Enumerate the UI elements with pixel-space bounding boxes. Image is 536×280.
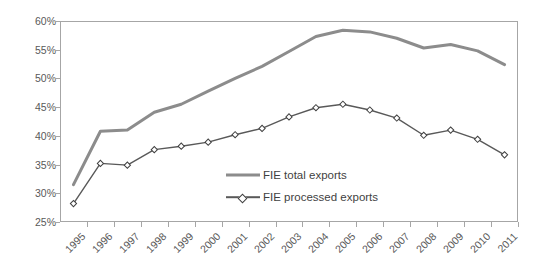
y-axis-tick-label: 60% <box>22 15 56 27</box>
chart-legend: FIE total exports FIE processed exports <box>226 164 378 208</box>
x-axis-tick-mark <box>141 222 142 227</box>
x-axis-tick-label: 2006 <box>355 230 385 260</box>
y-axis-tick-label: 30% <box>22 187 56 199</box>
legend-label-total: FIE total exports <box>263 169 347 181</box>
x-axis-tick-label: 1995 <box>58 230 88 260</box>
x-axis-tick-mark <box>222 222 223 227</box>
x-axis-tick-label: 2007 <box>382 230 412 260</box>
x-axis-tick-mark <box>168 222 169 227</box>
x-axis-tick-label: 2010 <box>462 230 492 260</box>
y-axis-tick-mark <box>55 50 60 51</box>
legend-line-processed-icon <box>226 190 260 204</box>
x-axis-tick-mark <box>464 222 465 227</box>
x-axis-tick-mark <box>491 222 492 227</box>
legend-line-total-icon <box>226 168 260 182</box>
x-axis-tick-label: 2005 <box>328 230 358 260</box>
x-axis-tick-label: 2004 <box>301 230 331 260</box>
x-axis-tick-mark <box>329 222 330 227</box>
x-axis-tick-mark <box>518 222 519 227</box>
x-axis-tick-label: 2003 <box>274 230 304 260</box>
y-axis-tick-label: 40% <box>22 130 56 142</box>
legend-label-processed: FIE processed exports <box>263 191 378 203</box>
x-axis-tick-label: 2008 <box>408 230 438 260</box>
x-axis-tick-mark <box>302 222 303 227</box>
x-axis-tick-mark <box>87 222 88 227</box>
x-axis-tick-label: 1996 <box>85 230 115 260</box>
y-axis-tick-mark <box>55 78 60 79</box>
x-axis-tick-mark <box>276 222 277 227</box>
x-axis-tick-mark <box>356 222 357 227</box>
x-axis-tick-label: 2001 <box>220 230 250 260</box>
y-axis-tick-mark <box>55 21 60 22</box>
x-axis-tick-mark <box>410 222 411 227</box>
x-axis-tick-mark <box>249 222 250 227</box>
x-axis-tick-label: 1998 <box>139 230 169 260</box>
y-axis: 25%30%35%40%45%50%55%60% <box>18 0 56 280</box>
y-axis-tick-label: 45% <box>22 101 56 113</box>
x-axis-tick-label: 2000 <box>193 230 223 260</box>
legend-item-processed: FIE processed exports <box>226 186 378 208</box>
y-axis-tick-mark <box>55 165 60 166</box>
y-axis-tick-mark <box>55 222 60 223</box>
x-axis-tick-label: 2011 <box>489 230 519 260</box>
x-axis-tick-label: 1997 <box>112 230 142 260</box>
y-axis-tick-mark <box>55 136 60 137</box>
y-axis-tick-label: 50% <box>22 72 56 84</box>
y-axis-tick-label: 55% <box>22 44 56 56</box>
x-axis-tick-label: 2002 <box>247 230 277 260</box>
x-axis-tick-label: 1999 <box>166 230 196 260</box>
x-axis-tick-mark <box>114 222 115 227</box>
x-axis-tick-label: 2009 <box>435 230 465 260</box>
y-axis-tick-label: 35% <box>22 159 56 171</box>
x-axis-tick-mark <box>383 222 384 227</box>
legend-diamond-marker-icon <box>237 193 247 203</box>
chart-container: 25%30%35%40%45%50%55%60% 199519961997199… <box>0 0 536 280</box>
x-axis-tick-mark <box>195 222 196 227</box>
x-axis-tick-mark <box>437 222 438 227</box>
y-axis-tick-mark <box>55 107 60 108</box>
y-axis-tick-label: 25% <box>22 216 56 228</box>
legend-item-total: FIE total exports <box>226 164 378 186</box>
y-axis-tick-mark <box>55 193 60 194</box>
